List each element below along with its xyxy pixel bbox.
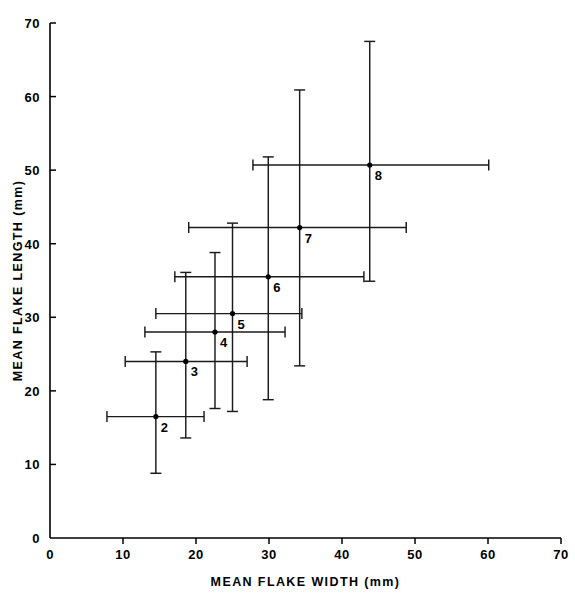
x-tick-label-0: 0: [46, 547, 54, 562]
y-axis-title: MEAN FLAKE LENGTH (mm): [11, 180, 25, 382]
marker-8: [367, 162, 372, 167]
axes-group: [50, 23, 561, 538]
y-tick-label-60: 60: [25, 90, 40, 105]
point-label-3: 3: [191, 364, 198, 379]
point-label-7: 7: [305, 231, 312, 246]
point-label-8: 8: [375, 168, 382, 183]
x-tick-label-50: 50: [407, 547, 422, 562]
marker-4: [212, 329, 217, 334]
marker-3: [183, 359, 188, 364]
marker-5: [230, 311, 235, 316]
tick-labels-group: 010203040506070010203040506070: [25, 16, 569, 562]
x-tick-label-70: 70: [553, 547, 568, 562]
y-tick-label-30: 30: [25, 310, 40, 325]
data-point-4[interactable]: 4: [145, 253, 285, 409]
data-point-8[interactable]: 8: [253, 41, 489, 281]
point-label-5: 5: [238, 317, 245, 332]
y-tick-label-70: 70: [25, 16, 40, 31]
data-point-7[interactable]: 7: [189, 90, 407, 366]
y-tick-label-10: 10: [25, 457, 40, 472]
scatter-plot: 010203040506070010203040506070 2345678 M…: [0, 0, 575, 595]
data-point-3[interactable]: 3: [125, 272, 247, 438]
x-tick-label-40: 40: [334, 547, 349, 562]
ticks-group: [50, 23, 561, 544]
marker-2: [153, 414, 158, 419]
y-tick-label-20: 20: [25, 384, 40, 399]
marker-7: [297, 225, 302, 230]
point-label-4: 4: [220, 335, 228, 350]
data-point-2[interactable]: 2: [107, 352, 204, 473]
y-tick-label-0: 0: [32, 531, 40, 546]
x-tick-label-10: 10: [115, 547, 130, 562]
y-tick-label-40: 40: [25, 237, 40, 252]
x-tick-label-30: 30: [261, 547, 276, 562]
point-label-6: 6: [273, 280, 280, 295]
axis-titles-group: MEAN FLAKE WIDTH (mm) MEAN FLAKE LENGTH …: [11, 180, 400, 589]
point-label-2: 2: [161, 420, 168, 435]
data-point-6[interactable]: 6: [175, 157, 364, 400]
y-tick-label-50: 50: [25, 163, 40, 178]
x-tick-label-60: 60: [480, 547, 495, 562]
x-tick-label-20: 20: [188, 547, 203, 562]
x-axis-title: MEAN FLAKE WIDTH (mm): [211, 575, 401, 589]
data-points-group: 2345678: [107, 41, 489, 473]
marker-6: [266, 274, 271, 279]
data-point-5[interactable]: 5: [156, 223, 302, 411]
figure-container: 010203040506070010203040506070 2345678 M…: [0, 0, 575, 595]
